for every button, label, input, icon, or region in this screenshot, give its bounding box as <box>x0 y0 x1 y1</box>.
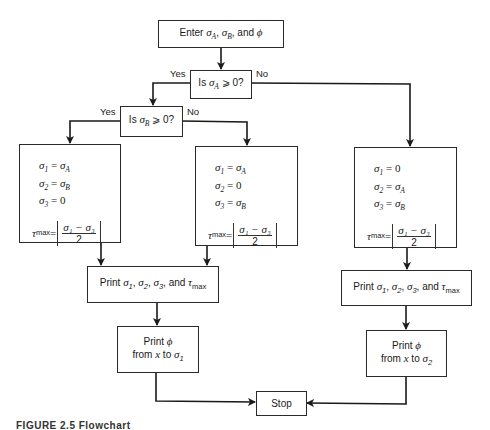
start-prefix: Enter <box>179 27 206 38</box>
calc-box-both-positive: σ1 = σA σ2 = σB σ3 = 0 τmax = σ₁ − σ₃2 <box>19 144 121 243</box>
abs-fraction: σ₁ − σ₃2 <box>57 221 100 246</box>
calc-row: σ1 = 0 <box>374 162 456 180</box>
equals: = <box>385 230 391 243</box>
print-prefix: Print <box>392 340 415 351</box>
rhs-sub: B <box>241 202 246 211</box>
calc-box-b-negative: σ1 = σA σ2 = 0 σ3 = σB τmax = σ₁ − σ₃2 <box>195 146 298 246</box>
rhs: 0 <box>236 179 242 191</box>
lhs-sub: 3 <box>379 203 383 212</box>
numerator: σ₁ − σ₃ <box>397 224 430 237</box>
separator: , and <box>232 27 257 38</box>
calc-box-a-negative: σ1 = 0 σ2 = σA σ3 = σB τmax = σ₁ − σ₃2 <box>354 147 457 248</box>
sigma-a-symbol: σA <box>209 76 219 88</box>
decision-suffix: ⩾ 0? <box>149 114 174 125</box>
tau-max-formula: τmax = σ₁ − σ₃2 <box>32 221 120 246</box>
lhs-sub: 2 <box>379 186 383 195</box>
decision-b-text: Is σB ⩾ 0? <box>129 113 174 130</box>
rhs: 0 <box>395 162 401 174</box>
phi-symbol: ϕ <box>415 339 421 351</box>
print-prefix: Print <box>100 277 123 288</box>
print-prefix: Print <box>353 281 376 292</box>
decision-suffix: ⩾ 0? <box>219 77 244 88</box>
abs-fraction: σ₁ − σ₃2 <box>392 224 435 249</box>
calc-row: σ3 = 0 <box>39 194 120 212</box>
decision-a-text: Is σA ⩾ 0? <box>198 76 243 93</box>
decision-prefix: Is <box>129 114 140 125</box>
separator: , and <box>417 281 442 292</box>
stop-label: Stop <box>271 397 292 410</box>
from-text: from <box>381 353 404 364</box>
tau-max-formula: τmax = σ₁ − σ₃2 <box>208 223 297 248</box>
print-phi-box-right: Print ϕ from x to σ2 <box>366 330 447 377</box>
tau-sub: max <box>36 227 50 240</box>
lhs-sub: 2 <box>44 183 48 192</box>
connector-decision-b-yes <box>70 121 120 143</box>
connector-decision-a-yes <box>153 83 190 105</box>
print-stress-box-right: Print σ1, σ2, σ3, and τmax <box>341 270 472 306</box>
decision-a-yes-label: Yes <box>170 68 186 79</box>
phi-symbol: ϕ <box>167 335 173 347</box>
sub: max <box>192 282 206 291</box>
tau-sub: max <box>371 230 385 243</box>
decision-b-yes-label: Yes <box>100 106 116 117</box>
rhs-sub: B <box>400 203 405 212</box>
sub: max <box>446 286 460 295</box>
sub: 1 <box>179 354 183 363</box>
rhs-sub: A <box>241 167 246 176</box>
connector-phi-left-to-stop <box>156 372 255 402</box>
rhs-sub: A <box>400 186 405 195</box>
tau-sub: max <box>212 229 226 242</box>
to-text: to <box>409 353 423 364</box>
decision-a-box: Is σA ⩾ 0? <box>190 70 252 99</box>
numerator: σ₁ − σ₃ <box>62 221 95 234</box>
from-text: from <box>132 349 155 360</box>
connector-decision-b-no <box>182 121 247 145</box>
sigma-b-symbol: σB <box>222 26 232 38</box>
denominator: 2 <box>76 234 82 246</box>
figure-caption: FIGURE 2.5 Flowchart <box>16 420 130 430</box>
print-prefix: Print <box>143 336 166 347</box>
sigma-b-symbol: σB <box>139 113 149 125</box>
denominator: 2 <box>252 236 258 248</box>
print-stress-box-left: Print σ1, σ2, σ3, and τmax <box>87 266 219 303</box>
lhs-sub: 1 <box>44 165 48 174</box>
lhs-sub: 3 <box>44 200 48 209</box>
sub: 2 <box>428 358 432 367</box>
print-stress-text: Print σ1, σ2, σ3, and τmax <box>353 280 459 297</box>
rhs-sub: A <box>65 165 70 174</box>
rhs-sub: B <box>65 183 70 192</box>
numerator: σ₁ − σ₃ <box>238 223 271 236</box>
calc-row: σ2 = 0 <box>215 179 297 197</box>
calc-row: σ2 = σB <box>39 177 120 195</box>
flowchart: Enter σA, σB, and ϕ Yes No Is σA ⩾ 0? Ye… <box>0 0 490 430</box>
lhs-sub: 1 <box>220 167 224 176</box>
equals: = <box>226 229 232 242</box>
phi-symbol: ϕ <box>257 26 263 38</box>
calc-row: σ2 = σA <box>374 180 456 198</box>
tau-max-formula: τmax = σ₁ − σ₃2 <box>367 224 456 249</box>
print-phi-line2: from x to σ2 <box>381 352 432 369</box>
denominator: 2 <box>411 237 417 249</box>
lhs-sub: 1 <box>379 168 383 177</box>
calc-row: σ3 = σB <box>215 196 297 214</box>
start-box: Enter σA, σB, and ϕ <box>158 20 284 48</box>
to-text: to <box>160 349 174 360</box>
calc-row: σ3 = σB <box>374 197 456 215</box>
lhs-sub: 2 <box>220 185 224 194</box>
lhs-sub: 3 <box>220 202 224 211</box>
stop-box: Stop <box>256 391 307 416</box>
print-phi-box-left: Print ϕ from x to σ1 <box>117 326 199 373</box>
print-stress-text: Print σ1, σ2, σ3, and τmax <box>100 276 206 293</box>
connector-decision-a-no <box>251 83 410 146</box>
print-phi-line2: from x to σ1 <box>132 348 183 365</box>
decision-b-no-label: No <box>187 106 199 117</box>
equals: = <box>50 227 56 240</box>
sigma-a-symbol: σA <box>206 26 216 38</box>
abs-fraction: σ₁ − σ₃2 <box>233 223 276 248</box>
print-phi-line1: Print ϕ <box>143 335 172 348</box>
print-phi-line1: Print ϕ <box>392 339 421 352</box>
start-text: Enter σA, σB, and ϕ <box>179 26 262 43</box>
separator: , and <box>163 277 188 288</box>
calc-row: σ1 = σA <box>39 159 120 177</box>
rhs: 0 <box>60 194 66 206</box>
